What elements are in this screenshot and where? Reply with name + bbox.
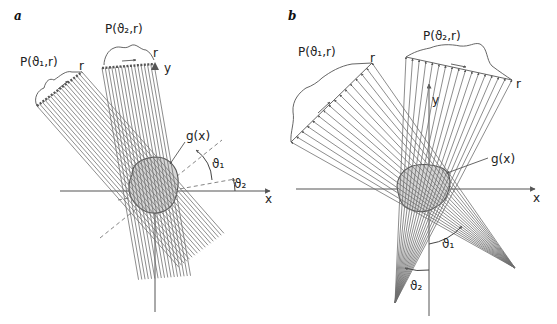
angle-2-label-a: ϑ₂ bbox=[234, 177, 246, 191]
projection-1-label-a: P(ϑ₁,r) bbox=[20, 55, 58, 69]
ray bbox=[350, 84, 515, 268]
x-axis-label-a: x bbox=[265, 192, 272, 206]
ray bbox=[367, 68, 515, 268]
r-label-1-b: r bbox=[370, 51, 375, 65]
angle-2-label-b: ϑ₂ bbox=[410, 279, 422, 293]
object-label-b: g(x) bbox=[491, 152, 515, 166]
ray bbox=[77, 76, 219, 237]
detector-1-b bbox=[291, 63, 372, 142]
object-leader-a bbox=[170, 142, 185, 164]
panel-b: b P(ϑ₁,r) P(ϑ₂,r) r r y x g(x) ϑ₁ ϑ₂ bbox=[288, 9, 540, 316]
ray bbox=[66, 84, 208, 245]
projection-curve-2-b bbox=[406, 44, 512, 80]
angle-1-label-a: ϑ₁ bbox=[212, 157, 224, 171]
ray bbox=[63, 86, 205, 247]
ray bbox=[69, 82, 211, 243]
y-axis-label-a: y bbox=[164, 61, 171, 75]
panel-a-label: a bbox=[14, 9, 22, 23]
r-direction-arrow-2-a bbox=[122, 60, 136, 61]
projection-curve-2-a bbox=[104, 45, 154, 65]
ray bbox=[307, 126, 515, 268]
ray bbox=[71, 80, 213, 241]
r-label-2-a: r bbox=[153, 46, 158, 60]
object-leader-b bbox=[447, 158, 488, 173]
projection-2-label-b: P(ϑ₂,r) bbox=[423, 29, 461, 43]
ray bbox=[74, 78, 216, 239]
panel-a: a P(ϑ₁,r) P(ϑ₂,r) r r y x g( bbox=[14, 9, 272, 312]
r-label-2-b: r bbox=[516, 77, 521, 91]
ray bbox=[291, 142, 515, 268]
panel-b-label: b bbox=[288, 9, 296, 23]
x-axis-label-b: x bbox=[533, 191, 540, 205]
r-label-1-a: r bbox=[79, 59, 84, 73]
angle-1-label-b: ϑ₁ bbox=[442, 237, 454, 251]
object-gx-a bbox=[129, 157, 178, 213]
y-axis-label-b: y bbox=[432, 93, 439, 107]
projection-geometry-figure: a P(ϑ₁,r) P(ϑ₂,r) r r y x g( bbox=[0, 0, 557, 324]
r-direction-arrow-2-b bbox=[451, 64, 466, 67]
projection-1-label-b: P(ϑ₁,r) bbox=[298, 45, 336, 59]
parallel-beam-2 bbox=[102, 64, 191, 280]
object-label-a: g(x) bbox=[186, 129, 210, 143]
projection-2-label-a: P(ϑ₂,r) bbox=[105, 22, 143, 36]
ray bbox=[345, 89, 515, 268]
